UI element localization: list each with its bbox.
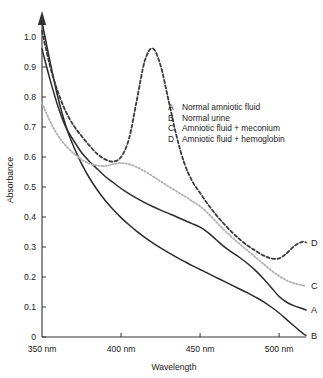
y-tick-label: 0.6 <box>24 152 36 162</box>
series-end-label-C: C <box>311 281 318 291</box>
y-tick-label: 0.8 <box>24 92 36 102</box>
y-tick-label: 0.5 <box>24 182 36 192</box>
y-tick-label: 0.3 <box>24 242 36 252</box>
series-end-label-D: D <box>311 238 318 248</box>
data-series-group <box>42 22 306 336</box>
chart-canvas: 00.10.20.30.40.50.60.70.80.91.0 350 nm40… <box>0 0 323 378</box>
x-tick-label: 450 nm <box>186 344 215 354</box>
legend-label-B: Normal urine <box>182 113 230 123</box>
y-axis-ticks: 00.10.20.30.40.50.60.70.80.91.0 <box>24 32 46 342</box>
legend-key-C: C <box>168 123 174 133</box>
y-tick-label: 0.2 <box>24 272 36 282</box>
y-tick-label: 0.9 <box>24 62 36 72</box>
legend: ANormal amniotic fluidBNormal urineCAmni… <box>168 102 285 144</box>
series-curve-A <box>42 49 306 310</box>
series-end-label-A: A <box>311 305 318 315</box>
y-tick-label: 0 <box>31 332 36 342</box>
y-tick-label: 0.4 <box>24 212 36 222</box>
legend-key-A: A <box>168 102 174 112</box>
series-end-labels: ABCD <box>311 238 318 341</box>
x-axis-ticks: 350 nm400 nm450 nm500 nm <box>28 333 294 354</box>
legend-label-C: Amniotic fluid + meconium <box>182 123 280 133</box>
x-tick-label: 350 nm <box>28 344 57 354</box>
y-tick-label: 0.7 <box>24 122 36 132</box>
x-tick-label: 400 nm <box>107 344 136 354</box>
y-axis-title: Absorbance <box>5 157 15 203</box>
legend-key-B: B <box>168 113 174 123</box>
legend-key-D: D <box>168 134 174 144</box>
series-end-label-B: B <box>311 331 317 341</box>
series-curve-B <box>42 22 306 336</box>
series-curve-D <box>42 31 306 259</box>
x-tick-label: 500 nm <box>265 344 294 354</box>
absorbance-spectrum-chart: 00.10.20.30.40.50.60.70.80.91.0 350 nm40… <box>0 0 323 378</box>
x-axis-title: Wavelength <box>151 362 196 372</box>
legend-label-A: Normal amniotic fluid <box>182 102 261 112</box>
y-tick-label: 0.1 <box>24 302 36 312</box>
axes <box>38 11 306 337</box>
legend-label-D: Amniotic fluid + hemoglobin <box>182 134 285 144</box>
y-tick-label: 1.0 <box>24 32 36 42</box>
